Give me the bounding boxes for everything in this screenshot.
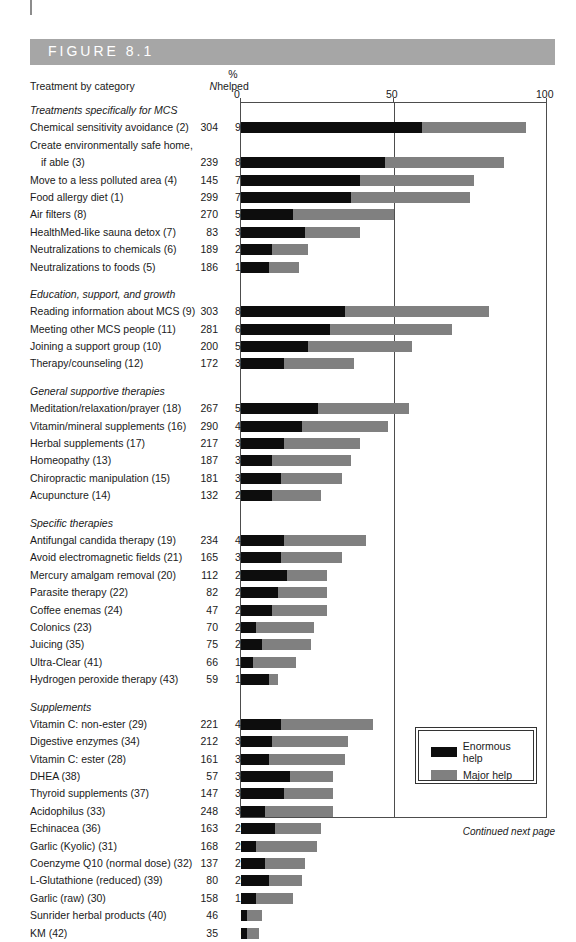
row-bar-wrapper [241,227,547,238]
bar-segment-major-help [269,262,300,273]
row-label: Antifungal candida therapy (19) [30,534,176,546]
crop-mark [30,0,32,15]
bar-segment-major-help [278,587,327,598]
row-bar-wrapper [241,858,547,869]
row-label: Create environmentally safe home, [30,139,193,151]
bar-segment-major-help [265,858,305,869]
table-row: Parasite therapy (22)8228% [0,584,576,601]
bar-segment-enormous-help [241,771,290,782]
row-n-value: 267 [178,402,218,414]
table-row: Sunrider herbal products (40)467% [0,907,576,924]
bar-segment-enormous-help [241,490,272,501]
table-row: Garlic (Kyolic) (31)16825% [0,838,576,855]
row-n-value: 234 [178,534,218,546]
stacked-bar [241,736,348,747]
bar-segment-enormous-help [241,736,272,747]
row-n-value: 217 [178,437,218,449]
row-n-value: 80 [178,874,218,886]
bar-segment-enormous-help [241,719,281,730]
row-label: KM (42) [30,927,67,939]
table-row: Homeopathy (13)18736% [0,452,576,469]
row-label: Neutralizations to foods (5) [30,261,155,273]
row-n-value: 189 [178,243,218,255]
row-label: Joining a support group (10) [30,340,161,352]
group-label: Specific therapies [30,517,113,529]
row-label: Meditation/relaxation/prayer (18) [30,402,181,414]
bar-segment-major-help [345,306,489,317]
bar-segment-enormous-help [241,473,281,484]
row-n-value: 66 [178,656,218,668]
row-label: Coenzyme Q10 (normal dose) (32) [30,857,192,869]
row-bar-wrapper [241,639,547,650]
bar-segment-major-help [272,605,327,616]
stacked-bar [241,209,394,220]
row-bar-wrapper [241,473,547,484]
table-row: Chiropractic manipulation (15)18133% [0,470,576,487]
bar-segment-major-help [262,639,311,650]
table-row: Herbal supplements (17)21739% [0,435,576,452]
bar-segment-major-help [256,893,293,904]
table-row: Garlic (raw) (30)15817% [0,890,576,907]
stacked-bar [241,403,409,414]
table-row: Acidophilus (33)24830% [0,803,576,820]
figure-title: FIGURE 8.1 [48,43,154,59]
row-bar-wrapper [241,244,547,255]
row-n-value: 303 [178,305,218,317]
bar-segment-enormous-help [241,403,318,414]
bar-segment-major-help [272,736,349,747]
table-row: Acupuncture (14)13226% [0,487,576,504]
bar-segment-enormous-help [241,324,330,335]
row-label: DHEA (38) [30,770,80,782]
table-row: Reading information about MCS (9)30381% [0,303,576,320]
row-label: Vitamin C: ester (28) [30,753,126,765]
row-label: Chemical sensitivity avoidance (2) [30,121,189,133]
stacked-bar [241,771,333,782]
bar-segment-major-help [293,209,394,220]
row-bar-wrapper [241,910,547,921]
bar-segment-enormous-help [241,622,256,633]
bar-segment-major-help [272,490,321,501]
stacked-bar [241,341,412,352]
row-bar-wrapper [241,622,547,633]
bar-segment-enormous-help [241,875,269,886]
bar-segment-enormous-help [241,893,256,904]
row-n-value: 299 [178,191,218,203]
bar-segment-enormous-help [241,244,272,255]
stacked-bar [241,244,308,255]
row-label: Therapy/counseling (12) [30,357,143,369]
row-n-value: 172 [178,357,218,369]
bar-segment-enormous-help [241,306,345,317]
row-bar-wrapper [241,209,547,220]
row-spacer [0,276,576,286]
row-bar-wrapper [241,552,547,563]
row-n-value: 75 [178,638,218,650]
row-label: HealthMed-like sauna detox (7) [30,226,176,238]
stacked-bar [241,587,327,598]
bar-segment-major-help [269,875,303,886]
row-n-value: 147 [178,787,218,799]
bar-segment-major-help [308,341,412,352]
table-row: Meditation/relaxation/prayer (18)26755% [0,400,576,417]
table-row: Antifungal candida therapy (19)23441% [0,532,576,549]
row-label: Parasite therapy (22) [30,586,128,598]
bar-segment-enormous-help [241,535,284,546]
bar-segment-enormous-help [241,806,265,817]
row-n-value: 145 [178,174,218,186]
bar-segment-enormous-help [241,823,275,834]
bar-segment-enormous-help [241,570,287,581]
row-label: Mercury amalgam removal (20) [30,569,176,581]
row-n-value: 200 [178,340,218,352]
legend-item-enormous: Enormous help [431,740,533,764]
row-label: Food allergy diet (1) [30,191,123,203]
row-bar-wrapper [241,674,547,685]
row-n-value: 212 [178,735,218,747]
row-bar-wrapper [241,605,547,616]
table-row: HealthMed-like sauna detox (7)8339% [0,224,576,241]
stacked-bar [241,455,351,466]
row-label: Air filters (8) [30,208,87,220]
table-row: Air filters (8)27050% [0,206,576,223]
stacked-bar [241,227,360,238]
bar-segment-major-help [253,657,296,668]
bar-segment-major-help [247,928,259,939]
group-label: General supportive therapies [30,385,165,397]
